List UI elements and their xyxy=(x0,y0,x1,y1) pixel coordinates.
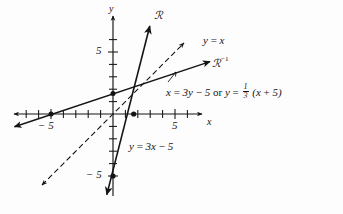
point-relation-x-intercept xyxy=(131,111,136,116)
inverse-relation-exponent: −1 xyxy=(221,55,228,63)
inv-eq-paren-close: 5) xyxy=(273,86,282,98)
y-tick-label-negative-five: − 5 xyxy=(86,169,102,180)
inv-eq-plus: + xyxy=(264,86,270,98)
inverse-relation-label: ℛ−1 xyxy=(212,54,228,70)
inv-eq-constant: 5 xyxy=(205,86,211,98)
identity-line-label: y = x xyxy=(203,35,225,46)
point-relation-y-intercept xyxy=(110,173,115,178)
rel-eq-lhs: y xyxy=(129,140,134,152)
y-tick-label-positive-five: 5 xyxy=(96,45,102,56)
relation-label: ℛ xyxy=(154,10,163,21)
x-tick-label-positive-five: 5 xyxy=(172,120,178,131)
rel-eq-constant: 5 xyxy=(168,140,174,152)
inv-eq-lhs: x xyxy=(166,86,171,98)
inv-eq-lhs2: y xyxy=(225,86,230,98)
x-tick-label-negative-five: − 5 xyxy=(38,120,54,131)
inv-eq-equals2: = xyxy=(233,86,239,98)
fraction-denominator: 3 xyxy=(243,92,249,100)
inv-eq-conjunction: or xyxy=(213,86,222,98)
inv-eq-paren-open: (x xyxy=(252,86,261,98)
identity-equals: = xyxy=(211,34,217,46)
leader-line-inverse-equation xyxy=(168,72,176,82)
rel-eq-minus: − xyxy=(159,140,165,152)
relation-equation-label: y = 3x − 5 xyxy=(129,141,173,152)
identity-lhs: y xyxy=(203,34,208,46)
inv-eq-term: 3y xyxy=(183,86,193,98)
inv-eq-minus: − xyxy=(196,86,202,98)
inv-eq-equals: = xyxy=(174,86,180,98)
rel-eq-term: 3x xyxy=(146,140,156,152)
inverse-equation-label: x = 3y − 5 or y = 1 3 (x + 5) xyxy=(166,83,282,101)
y-axis-label: y xyxy=(109,4,113,14)
inverse-relation-base: ℛ xyxy=(212,57,221,70)
identity-rhs: x xyxy=(220,34,225,46)
inverse-relation-graph-figure: − 5 5 5 − 5 x y ℛ y = x ℛ−1 x = 3y − 5 o… xyxy=(0,0,343,214)
rel-eq-equals: = xyxy=(137,140,143,152)
x-axis-label: x xyxy=(207,117,211,127)
coordinate-plane-svg xyxy=(0,0,343,214)
point-inverse-x-intercept xyxy=(49,112,54,117)
one-third-fraction: 1 3 xyxy=(243,83,249,101)
point-inverse-y-intercept xyxy=(111,91,116,96)
